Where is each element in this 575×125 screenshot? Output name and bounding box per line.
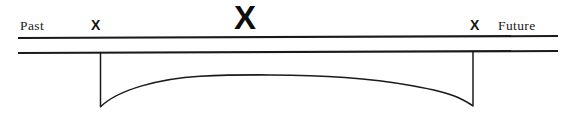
future-label: Future — [498, 19, 536, 33]
bridge-arc — [101, 75, 474, 107]
timeline-diagram — [0, 0, 575, 125]
diagram-canvas: Past Future X X X — [0, 0, 575, 125]
marker-right-x-glyph: X — [470, 18, 479, 32]
axis-line-upper — [18, 36, 558, 38]
axis-line-lower — [18, 51, 558, 53]
marker-left-x-glyph: X — [91, 18, 100, 32]
past-label: Past — [20, 19, 44, 33]
marker-center-x-glyph: X — [234, 1, 256, 34]
